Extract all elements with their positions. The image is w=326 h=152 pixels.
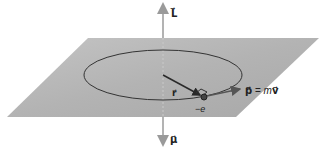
label-momentum: p⃗ = mv⃗ — [245, 85, 279, 96]
label-momentum-m: m — [264, 85, 272, 96]
label-momentum-p: p⃗ — [245, 85, 252, 96]
label-electron-charge: −e — [195, 104, 205, 114]
electron — [201, 94, 207, 100]
label-momentum-eq: = — [252, 85, 263, 96]
label-momentum-v: v⃗ — [272, 85, 279, 96]
label-magnetic-moment: μ⃗ — [170, 134, 178, 145]
label-radius-vector: r⃗ — [172, 88, 177, 98]
diagram-canvas: L⃗ r⃗ −e p⃗ = mv⃗ μ⃗ — [0, 0, 326, 152]
label-angular-momentum: L⃗ — [170, 7, 178, 19]
